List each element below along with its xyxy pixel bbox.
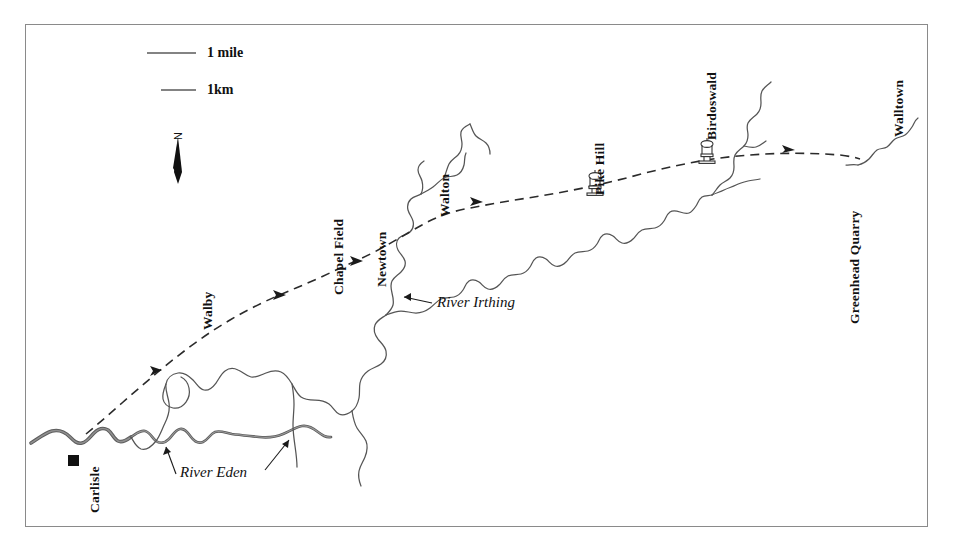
place-label-greenhead-quarry: Greenhead Quarry — [847, 210, 863, 324]
river-eden-loop — [131, 315, 386, 449]
river-irthing-east — [386, 195, 712, 315]
river-eden-main — [131, 426, 331, 443]
place-label-newtown: Newtown — [374, 232, 390, 287]
place-label-pike-hill: Pike Hill — [592, 143, 608, 195]
place-label-walby: Walby — [200, 291, 216, 330]
hadrians-wall-route — [86, 145, 860, 434]
scale-mile-label: 1 mile — [207, 45, 243, 61]
river-irthing — [352, 161, 424, 486]
north-arrow-icon — [173, 137, 182, 184]
river-label-eden: River Eden — [180, 464, 247, 481]
walltown-burn — [712, 82, 771, 195]
north-label: N — [172, 132, 184, 140]
river-eden-tributary — [292, 384, 297, 467]
scale-km-label: 1km — [207, 82, 233, 98]
walton-tributaries — [421, 124, 490, 194]
river-eden-leader-arrowheads — [163, 440, 289, 455]
map-graphics — [0, 0, 953, 552]
place-label-walltown: Walltown — [891, 80, 907, 137]
river-eden-estuary — [31, 429, 131, 444]
place-label-walton: Walton — [437, 174, 453, 217]
river-label-irthing: River Irthing — [437, 294, 515, 311]
place-label-birdoswald: Birdoswald — [704, 72, 720, 140]
place-label-carlisle: Carlisle — [87, 466, 103, 513]
place-label-chapel-field: Chapel Field — [331, 219, 347, 295]
route-arrowhead — [150, 145, 795, 376]
map-figure: 1 mile 1km N Carlisle Walby Chapel Field… — [0, 0, 953, 552]
river-irthing-leader-arrowhead — [404, 293, 411, 301]
carlisle-marker-icon — [68, 455, 79, 466]
eastern-ridge — [712, 179, 760, 195]
